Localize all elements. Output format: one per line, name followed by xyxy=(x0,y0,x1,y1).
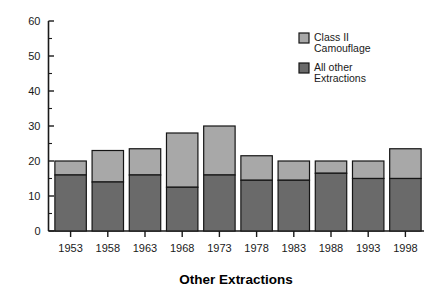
chart-canvas: 0102030405060 19531958196319681973197819… xyxy=(0,0,433,297)
y-tick-label-0: 0 xyxy=(34,225,40,237)
bar-segment-camouflage-1998 xyxy=(390,149,421,179)
x-tick-label-1968: 1968 xyxy=(170,242,194,254)
x-tick-label-1993: 1993 xyxy=(356,242,380,254)
y-tick-label-10: 10 xyxy=(28,190,40,202)
x-tick-label-1973: 1973 xyxy=(207,242,231,254)
bar-segment-other-extractions-1958 xyxy=(92,182,123,231)
bar-segment-camouflage-1983 xyxy=(278,161,309,180)
bar-segment-camouflage-1978 xyxy=(241,156,272,181)
y-tick-label-50: 50 xyxy=(28,50,40,62)
bar-segment-other-extractions-1993 xyxy=(352,179,383,232)
bar-segment-camouflage-1968 xyxy=(166,133,197,187)
bar-segment-other-extractions-1988 xyxy=(315,173,346,231)
legend-swatch-all-other-extractions xyxy=(299,63,309,73)
legend-label-line2-0: Camouflage xyxy=(314,42,371,54)
bar-segment-other-extractions-1998 xyxy=(390,179,421,232)
legend-swatch-class-ii-camouflage xyxy=(299,33,309,43)
bar-segment-other-extractions-1978 xyxy=(241,180,272,231)
legend-label-line1-0: Class II xyxy=(314,31,349,43)
stacked-bar-chart: 0102030405060 19531958196319681973197819… xyxy=(0,0,433,297)
bar-segment-camouflage-1988 xyxy=(315,161,346,173)
bar-segment-other-extractions-1968 xyxy=(166,187,197,231)
x-tick-label-1978: 1978 xyxy=(244,242,268,254)
legend-label-line1-1: All other xyxy=(314,61,353,73)
x-tick-label-1963: 1963 xyxy=(133,242,157,254)
y-tick-label-20: 20 xyxy=(28,155,40,167)
bar-segment-other-extractions-1953 xyxy=(55,175,86,231)
bar-segment-other-extractions-1963 xyxy=(129,175,160,231)
x-tick-label-1953: 1953 xyxy=(58,242,82,254)
bar-segment-camouflage-1993 xyxy=(352,161,383,179)
x-tick-label-1983: 1983 xyxy=(282,242,306,254)
x-tick-label-1958: 1958 xyxy=(96,242,120,254)
y-tick-label-60: 60 xyxy=(28,15,40,27)
bar-segment-camouflage-1958 xyxy=(92,151,123,183)
bar-segment-other-extractions-1973 xyxy=(204,175,235,231)
x-tick-label-1998: 1998 xyxy=(393,242,417,254)
bar-segment-camouflage-1953 xyxy=(55,161,86,175)
y-tick-label-30: 30 xyxy=(28,120,40,132)
y-tick-label-40: 40 xyxy=(28,85,40,97)
x-axis-title: Other Extractions xyxy=(179,272,292,287)
bar-segment-camouflage-1973 xyxy=(204,126,235,175)
bar-segment-camouflage-1963 xyxy=(129,149,160,175)
x-tick-label-1988: 1988 xyxy=(319,242,343,254)
legend-label-line2-1: Extractions xyxy=(314,72,366,84)
bar-segment-other-extractions-1983 xyxy=(278,180,309,231)
